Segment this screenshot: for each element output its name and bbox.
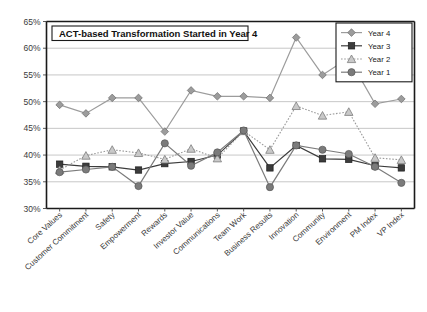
data-point-circle: [214, 149, 221, 156]
x-axis-tick-label: PM Index: [348, 210, 379, 239]
data-point-circle: [82, 166, 89, 173]
y-axis-tick-label: 35%: [23, 177, 40, 187]
data-point-square: [398, 165, 404, 171]
data-point-square: [319, 156, 325, 162]
data-point-circle: [345, 150, 352, 157]
legend-label: Year 2: [368, 55, 390, 64]
chart-title: ACT-based Transformation Started in Year…: [59, 28, 258, 39]
data-point-circle: [348, 69, 355, 76]
data-point-circle: [109, 163, 116, 170]
data-point-circle: [398, 179, 405, 186]
x-axis-tick-label: VP Index: [376, 210, 406, 238]
legend-label: Year 1: [368, 68, 390, 77]
data-point-circle: [266, 184, 273, 191]
data-point-circle: [161, 140, 168, 147]
chart-canvas: 30%35%40%45%50%55%60%65%Core ValuesCusto…: [0, 0, 427, 312]
data-point-circle: [319, 146, 326, 153]
chart-figure: 30%35%40%45%50%55%60%65%Core ValuesCusto…: [0, 0, 427, 312]
x-axis-tick-label: Communications: [171, 210, 221, 257]
data-point-square: [135, 167, 141, 173]
data-point-circle: [240, 127, 247, 134]
data-point-circle: [187, 162, 194, 169]
data-point-circle: [56, 169, 63, 176]
data-point-circle: [135, 182, 142, 189]
data-point-circle: [293, 142, 300, 149]
y-axis-tick-label: 30%: [23, 204, 40, 214]
data-point-circle: [371, 163, 378, 170]
x-axis-tick-label: Safety: [94, 210, 117, 232]
data-point-square: [267, 165, 273, 171]
y-axis-tick-label: 55%: [23, 70, 40, 80]
y-axis-tick-label: 60%: [23, 43, 40, 53]
y-axis-tick-label: 65%: [23, 17, 40, 27]
legend-label: Year 4: [368, 29, 391, 38]
y-axis-tick-label: 45%: [23, 123, 40, 133]
data-point-square: [348, 43, 354, 49]
x-axis-tick-label: Business Results: [223, 210, 275, 258]
legend-label: Year 3: [368, 42, 390, 51]
y-axis-tick-label: 50%: [23, 97, 40, 107]
y-axis-tick-label: 40%: [23, 150, 40, 160]
